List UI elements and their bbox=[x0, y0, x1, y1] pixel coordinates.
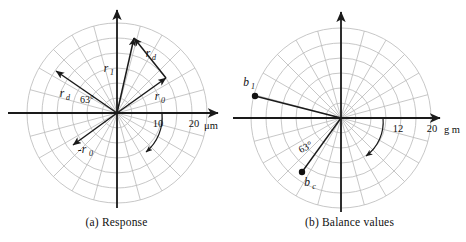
panel-response: 10 20 μm r 1 r 0 r bbox=[0, 0, 233, 242]
vector-minus-r-zero bbox=[73, 113, 117, 145]
svg-text:d: d bbox=[152, 53, 157, 62]
x-tick-a-1: 20 bbox=[189, 118, 200, 129]
polar-plot-a: 10 20 μm r 1 r 0 r bbox=[0, 0, 233, 216]
x-tick-b-0: 12 bbox=[393, 123, 404, 134]
caption-panel-b: (b) Balance values bbox=[233, 216, 466, 228]
figure-root: 10 20 μm r 1 r 0 r bbox=[0, 0, 466, 242]
x-axis-unit-b: g m bbox=[444, 124, 460, 135]
svg-text:1: 1 bbox=[251, 82, 255, 91]
svg-text:1: 1 bbox=[110, 68, 114, 77]
angle-label-b: 63° bbox=[297, 139, 315, 155]
vector-r-d-left bbox=[56, 71, 117, 113]
panel-balance-values: 12 20 g m b 1 b c 63° (b) Balance values bbox=[233, 0, 466, 242]
svg-text:r: r bbox=[60, 87, 65, 99]
svg-text:r: r bbox=[146, 47, 151, 59]
vector-label-r-one: r 1 bbox=[104, 62, 114, 77]
svg-text:r: r bbox=[155, 90, 160, 102]
angle-label-a: 63° bbox=[80, 94, 94, 105]
svg-text:b: b bbox=[243, 76, 249, 88]
vector-r-one bbox=[117, 38, 134, 113]
x-axis-unit-a: μm bbox=[204, 120, 218, 131]
svg-text:r: r bbox=[104, 62, 109, 74]
polar-plot-b: 12 20 g m b 1 b c 63° bbox=[233, 0, 466, 216]
point-label-b-c: b c bbox=[304, 176, 316, 191]
svg-text:c: c bbox=[312, 182, 316, 191]
point-label-b-one: b 1 bbox=[243, 76, 255, 91]
svg-text:0: 0 bbox=[161, 96, 165, 105]
svg-text:0: 0 bbox=[89, 149, 93, 158]
point-marker-b-c bbox=[299, 169, 305, 175]
svg-text:-r: -r bbox=[78, 143, 87, 155]
caption-panel-a: (a) Response bbox=[0, 216, 233, 228]
vector-label-minus-r-zero: -r 0 bbox=[78, 143, 93, 158]
vector-label-r-d-left: r d bbox=[60, 87, 71, 102]
x-tick-b-1: 20 bbox=[427, 123, 438, 134]
vector-b-one bbox=[255, 96, 341, 118]
point-marker-b-one bbox=[252, 93, 258, 99]
svg-text:b: b bbox=[304, 176, 310, 188]
